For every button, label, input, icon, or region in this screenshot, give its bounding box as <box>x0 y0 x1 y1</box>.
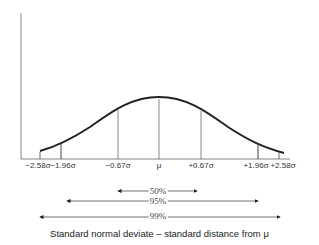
bell-curve <box>40 97 284 153</box>
tick-label-pos1.96: +1.96σ <box>243 161 268 170</box>
tick-label-pos0.67: +0.67σ <box>188 161 213 170</box>
tick-label-pos2.58: +2.58σ <box>270 161 295 170</box>
interval-label-50: 50% <box>149 186 168 196</box>
tick-label-neg1.96: −1.96σ <box>50 161 75 170</box>
interval-label-99: 99% <box>149 211 168 221</box>
interval-label-95: 95% <box>149 196 168 206</box>
tick-label-mu: μ <box>157 161 162 170</box>
tick-label-neg2.58: −2.58σ <box>25 161 50 170</box>
tick-label-neg0.67: −0.67σ <box>105 161 130 170</box>
diagram-caption: Standard normal deviate – standard dista… <box>0 228 319 239</box>
normal-curve-diagram <box>0 0 319 245</box>
